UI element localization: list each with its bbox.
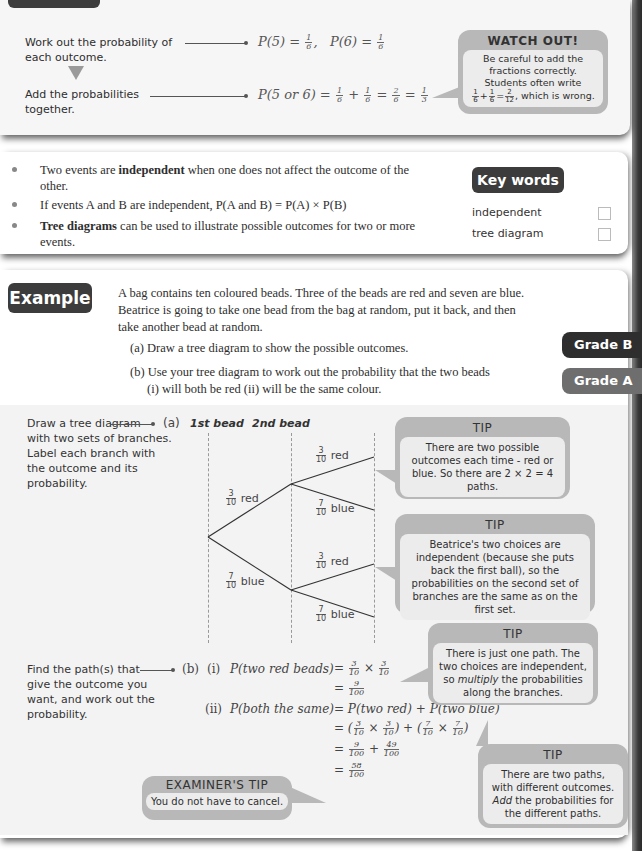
tip-title: TIP	[483, 748, 623, 762]
part-b-i-line1: = 310 × 310	[334, 660, 390, 677]
branch-label-first-blue: 710 blue	[225, 573, 264, 590]
part-b-ii-lhs: P(both the same)	[230, 702, 334, 716]
tip-body: There are two possible outcomes each tim…	[400, 437, 565, 497]
part-b-i-label: (i)	[207, 662, 220, 676]
callout-pointer	[290, 787, 326, 803]
arrow-line	[140, 670, 172, 671]
part-b-i-line2: = 9100	[334, 680, 365, 697]
part-b-ii-line2: = (310 × 310) + (710 × 710)	[334, 720, 468, 737]
part-b-ii-line4: = 58100	[334, 762, 365, 779]
guide-line: give the outcome you	[27, 677, 187, 692]
callout-pointer	[400, 668, 428, 682]
callout-pointer	[375, 470, 397, 484]
guide-line: probability.	[27, 707, 187, 722]
tip-body: There are two paths, with different outc…	[483, 764, 623, 824]
branch-label-first-red: 310 red	[225, 490, 259, 507]
guide-b: Find the path(s) that give the outcome y…	[27, 662, 187, 722]
tip-callout-1: TIP There are two possible outcomes each…	[395, 417, 570, 499]
examiner-tip-body: You do not have to cancel.	[146, 793, 288, 810]
branch-label-second-red: 310 red	[315, 553, 349, 570]
tip-body: There is just one path. The two choices …	[433, 643, 593, 703]
callout-pointer	[476, 720, 488, 746]
part-b-ii-line3: = 9100 + 49100	[334, 741, 400, 758]
branch-label-second-blue: 710 blue	[315, 606, 354, 623]
part-b-i-lhs: P(two red beads)	[230, 662, 334, 676]
callout-pointer	[375, 567, 397, 581]
tip-callout-2: TIP Beatrice's two choices are independe…	[395, 514, 595, 614]
branch-label-second-blue: 710 blue	[315, 500, 354, 517]
part-b-ii-label: (ii)	[205, 702, 222, 716]
part-b-label: (b)	[182, 662, 199, 676]
guide-line: want, and work out the	[27, 692, 187, 707]
examiner-tip-callout: EXAMINER'S TIP You do not have to cancel…	[142, 776, 292, 820]
examiner-tip-title: EXAMINER'S TIP	[146, 778, 288, 792]
tip-body: Beatrice's two choices are independent (…	[400, 534, 590, 620]
arrow-dot	[171, 668, 175, 672]
tip-title: TIP	[400, 518, 590, 532]
branch-label-second-red: 310 red	[315, 447, 349, 464]
tip-title: TIP	[433, 627, 593, 641]
tip-callout-3: TIP There is just one path. The two choi…	[428, 623, 598, 705]
tip-callout-4: TIP There are two paths, with different …	[478, 744, 628, 828]
tip-title: TIP	[400, 421, 565, 435]
